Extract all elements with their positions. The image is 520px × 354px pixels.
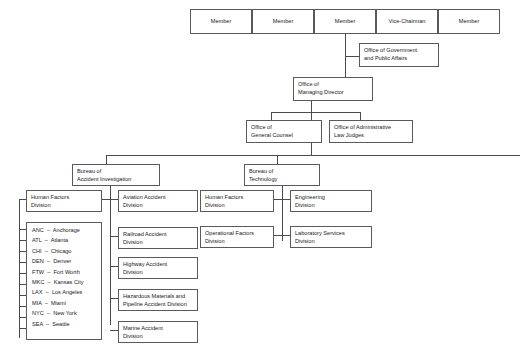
organization-chart: Member Member Member Vice-Chairman Membe…: [0, 0, 520, 354]
list-item[interactable]: SEA – Seattle: [32, 319, 97, 329]
division-engineering-box[interactable]: Engineering Division: [290, 190, 372, 212]
list-item[interactable]: CHI – Chicago: [32, 246, 97, 256]
office-administrative-law-judges-box[interactable]: Office of Administrative Law Judges: [329, 120, 413, 143]
office-managing-director-box[interactable]: Office of Managing Director: [293, 77, 373, 101]
connector-drop-bureau-accident: [106, 155, 107, 164]
connector-drop-law-judges: [360, 112, 361, 120]
connector-stub-field-office-1: [19, 229, 26, 230]
connector-drop-bureau-technology: [277, 155, 278, 164]
connector-stub-tech-engineering: [282, 199, 290, 200]
list-item[interactable]: ANC – Anchorage: [32, 225, 97, 235]
connector-stub-government-affairs: [345, 56, 359, 57]
connector-counsel-split: [271, 112, 361, 113]
list-item[interactable]: MIA – Miami: [32, 298, 97, 308]
connector-stub-highway: [110, 266, 118, 267]
connector-stub-field-office-4: [19, 262, 26, 263]
connector-stub-bracket-to-regional: [19, 199, 26, 200]
field-offices-list: ANC – Anchorage ATL – Atlanta CHI – Chic…: [26, 222, 102, 340]
list-item[interactable]: LAX – Los Angeles: [32, 287, 97, 297]
connector-stub-field-office-5: [19, 273, 26, 274]
connector-bureau-bar: [106, 155, 520, 156]
bureau-technology-box[interactable]: Bureau of Technology: [244, 164, 320, 186]
office-general-counsel-box[interactable]: Office of General Counsel: [246, 120, 322, 143]
connector-stub-tech-laboratory: [282, 235, 290, 236]
bureau-accident-investigation-box[interactable]: Bureau of Accident Investigation: [72, 164, 160, 186]
division-human-factors-technology-box[interactable]: Human Factors Division: [200, 190, 274, 212]
connector-stub-field-office-6: [19, 284, 26, 285]
division-highway-accident-box[interactable]: Highway Accident Division: [118, 257, 198, 279]
connector-stub-field-office-2: [19, 240, 26, 241]
connector-spine-accident-divisions: [110, 186, 111, 325]
connector-stub-field-office-8: [19, 306, 26, 307]
board-box-member-3[interactable]: Member: [314, 9, 376, 34]
list-item[interactable]: MKC – Kansas City: [32, 277, 97, 287]
list-item[interactable]: FTW – Fort Worth: [32, 267, 97, 277]
list-item[interactable]: NYC – New York: [32, 308, 97, 318]
connector-stub-marine: [110, 330, 118, 331]
connector-stub-hazmat: [110, 298, 118, 299]
connector-stub-tech-human-factors: [274, 199, 282, 200]
connector-stub-regional-division: [102, 199, 110, 200]
division-marine-accident-box[interactable]: Marine Accident Division: [118, 321, 198, 343]
office-government-public-affairs-box[interactable]: Office of Government and Public Affairs: [359, 43, 439, 67]
board-box-vice-chairman[interactable]: Vice-Chairman: [376, 9, 438, 34]
connector-stub-field-office-10: [19, 328, 26, 329]
connector-stub-tech-operational-factors: [274, 235, 282, 236]
connector-drop-general-counsel: [271, 112, 272, 120]
list-item[interactable]: DEN – Denver: [32, 256, 97, 266]
connector-stub-field-office-9: [19, 317, 26, 318]
connector-stub-aviation: [110, 199, 118, 200]
board-box-member-2[interactable]: Member: [252, 9, 314, 34]
division-aviation-accident-box[interactable]: Aviation Accident Division: [118, 190, 198, 212]
connector-spine-technology-divisions: [282, 186, 283, 241]
division-railroad-accident-box[interactable]: Railroad Accident Division: [118, 227, 198, 249]
division-operational-factors-box[interactable]: Operational Factors Division: [200, 226, 274, 248]
board-box-member-5[interactable]: Member: [438, 9, 500, 34]
division-laboratory-services-box[interactable]: Laboratory Services Division: [290, 226, 372, 248]
board-box-member-1[interactable]: Member: [190, 9, 252, 34]
connector-stub-field-office-3: [19, 251, 26, 252]
division-human-factors-accident-box[interactable]: Human Factors Division: [26, 190, 102, 212]
connector-stub-railroad: [110, 236, 118, 237]
connector-stub-field-office-7: [19, 295, 26, 296]
division-hazardous-materials-pipeline-box[interactable]: Hazardous Materials and Pipeline Acciden…: [118, 289, 198, 311]
list-item[interactable]: ATL – Atlanta: [32, 235, 97, 245]
